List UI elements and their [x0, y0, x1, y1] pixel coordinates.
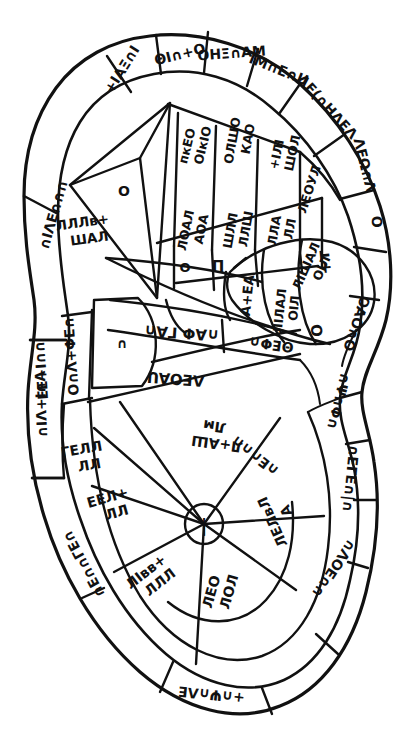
processus-bar-text: ΛΕOAU — [146, 368, 205, 390]
processus-center-mark: O — [118, 183, 130, 199]
liver-diagram-figure: Piacenza Liver — line drawing of the Etr… — [0, 0, 397, 756]
rim-inscription: Ο — [369, 216, 385, 229]
gall-bladder-lobe-left: A+ΕA — [237, 273, 257, 316]
left-mid-inscription-group: O∩Λ+ΦΕ∩ ΕΕ+I∩∩ — [31, 317, 82, 401]
processus-left-text: ЛЛЛв+ ШАЛ — [55, 204, 154, 250]
rim-inscription: OAO∩O — [340, 294, 373, 354]
grid-line-v1 — [174, 113, 178, 246]
rim-divider — [160, 662, 173, 692]
gall-bladder-stem — [234, 258, 246, 268]
rim-inscription: ΛΕΩ∩Λ — [350, 136, 379, 193]
gall-bladder-top-glyph: +т — [313, 249, 335, 275]
grid-inscription: +ІЛІ ШОЛ — [266, 100, 310, 174]
processus-dot: О — [179, 260, 190, 275]
rim-inscription: ∩Ε∩∩ΓΕ∩ — [59, 528, 108, 600]
rim-divider — [348, 562, 368, 568]
fan-inscription: ГЕЛЛ ЛЛ — [60, 430, 150, 477]
processus-lower-text: ∩AΦ ΓA∩ — [144, 321, 220, 344]
rim-inscription: +IAΞ∩I — [101, 43, 143, 97]
liver-drawing-canvas: +IAΞ∩I ΘI∩+O OHΞ∩AM IM∩Ε∩U ΛΕ(∩ΗΛΕΛ ΛΕΩ∩… — [0, 0, 397, 756]
gall-bladder-bottom-glyph: O — [307, 323, 326, 338]
gall-bladder-inscription-group: +т O A+ΕA ЛІЛАЛ ОІЛ — [237, 249, 335, 338]
detail-stroke — [300, 360, 320, 404]
triangle-ridge-2 — [140, 103, 170, 158]
rim-inscription: ∩IΛΕ∩∩∩ — [36, 178, 71, 251]
left-mid-inscription: ΕΕ+I∩∩ — [31, 340, 51, 400]
rim-divider — [346, 440, 370, 444]
center-boss-glyph: | — [201, 515, 208, 536]
d-hollow-glyph: ∩ — [117, 336, 128, 351]
rim-inscription: ∩Ψ∩Φ∩ — [324, 371, 354, 431]
processus-pi-glyph: Π — [212, 258, 225, 276]
